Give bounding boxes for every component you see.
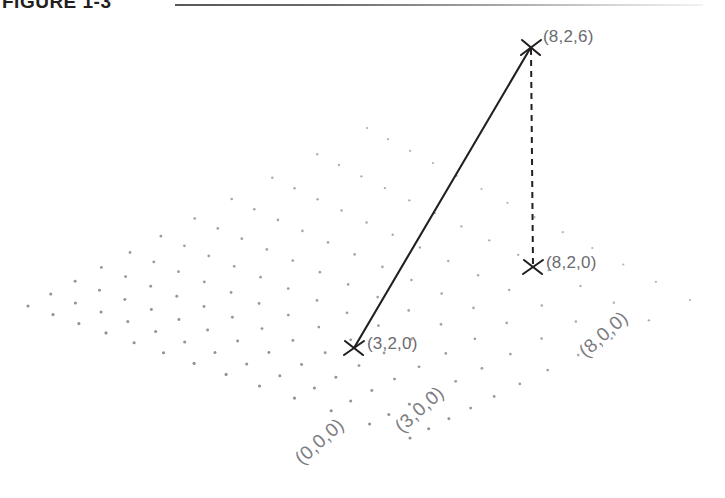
grid-dot [689, 299, 691, 301]
grid-dot [293, 187, 295, 189]
grid-dot [480, 188, 482, 190]
grid-dot [454, 380, 457, 383]
grid-dot [393, 378, 396, 381]
grid-dot [447, 260, 449, 262]
grid-dot [300, 363, 303, 366]
grid-dot [177, 270, 180, 273]
marker-x-3-2-0 [344, 341, 364, 355]
grid-dot [506, 202, 508, 204]
grid-dot [540, 337, 543, 340]
grid-dot [340, 209, 342, 211]
grid-dot [387, 413, 390, 416]
grid-dot [231, 316, 234, 319]
grid-dot [26, 304, 29, 307]
grid-dot [469, 407, 472, 410]
grid-dot [319, 271, 322, 274]
grid-dot [655, 281, 657, 283]
grid-dot [258, 302, 261, 305]
grid-dot [546, 369, 549, 372]
grid-dot [177, 318, 180, 321]
grid-dot [316, 299, 319, 302]
grid-dot [353, 253, 356, 256]
grid-dot [253, 208, 256, 211]
grid-dot [207, 255, 210, 258]
grid-dot [440, 323, 443, 326]
grid-dot [518, 383, 521, 386]
grid-dot [440, 292, 443, 295]
grid-dot [648, 319, 650, 321]
grid-dot [162, 351, 165, 354]
grid-dot [98, 289, 101, 292]
grid-dot [183, 340, 186, 343]
grid-dot [408, 436, 411, 439]
grid-dot [149, 285, 152, 288]
grid-dot [124, 275, 127, 278]
grid-dot [225, 373, 228, 376]
grid-dot [358, 364, 361, 367]
grid-dot [240, 237, 243, 240]
grid-dot [410, 279, 413, 282]
grid-dot [100, 311, 103, 314]
grid-dot [508, 289, 510, 291]
grid-dot [203, 280, 206, 283]
grid-dot [203, 305, 206, 308]
grid-dot [432, 162, 434, 164]
grid-dot [216, 227, 219, 230]
grid-dot [360, 175, 362, 177]
grid-dot [74, 301, 77, 304]
grid-dot [444, 352, 447, 355]
grid-dot [505, 322, 508, 325]
grid-dot [349, 399, 352, 402]
grid-dot [129, 251, 132, 254]
grid-dot [509, 353, 512, 356]
grid-dot [317, 326, 320, 329]
grid-dot [133, 341, 136, 344]
grid-dot [193, 217, 196, 220]
grid-dot [160, 235, 163, 238]
grid-dot [265, 248, 268, 251]
grid-dot [126, 320, 129, 323]
grid-dot [391, 233, 393, 235]
grid-dot [562, 231, 564, 233]
grid-dot [213, 351, 216, 354]
grid-dot [349, 338, 352, 341]
grid-dot [104, 331, 107, 334]
grid-dot [100, 266, 103, 269]
grid-dot [376, 296, 379, 299]
grid-dot [370, 389, 373, 392]
grid-dot [152, 260, 155, 263]
grid-dot [233, 265, 236, 268]
grid-dot [347, 283, 350, 286]
grid-dot [150, 308, 153, 311]
grid-dot [338, 164, 340, 166]
grid-dot [533, 216, 535, 218]
grid-dot [236, 340, 239, 343]
grid-dot [346, 311, 349, 314]
grid-dot [541, 304, 543, 306]
grid-dot [447, 417, 450, 420]
grid-dot [327, 241, 330, 244]
grid-dot [579, 285, 581, 287]
grid-dot [271, 176, 273, 178]
grid-dot [277, 219, 280, 222]
grid-dot [230, 198, 233, 201]
perspective-dot-grid [26, 127, 691, 440]
grid-dot [301, 230, 304, 233]
grid-dot [481, 367, 484, 370]
point-label-8-2-6: (8,2,6) [543, 27, 594, 47]
grid-dot [324, 351, 327, 354]
segment-8-2-6-to-8-2-0 [531, 49, 533, 266]
grid-dot [493, 395, 496, 398]
grid-dot [407, 309, 410, 312]
grid-dot [175, 295, 178, 298]
figure-diagram [0, 0, 725, 498]
grid-dot [287, 287, 290, 290]
grid-dot [622, 263, 624, 265]
grid-dot [460, 225, 462, 227]
grid-dot [258, 384, 261, 387]
grid-dot [409, 150, 411, 152]
grid-dot [51, 313, 54, 316]
grid-dot [313, 387, 316, 390]
grid-dot [387, 138, 389, 140]
grid-dot [291, 259, 294, 262]
